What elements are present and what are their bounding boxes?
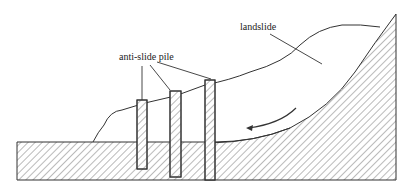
landslide-leader-line <box>270 34 322 64</box>
pile-leader-line-3 <box>157 62 211 79</box>
landslide-pile-diagram <box>0 0 409 194</box>
sliding-direction-arrow <box>248 108 296 128</box>
landslide-label: landslide <box>240 22 276 32</box>
anti-slide-pile-label: anti-slide pile <box>119 52 174 62</box>
pile-leader-line-2 <box>150 65 170 90</box>
arrow-head-icon <box>246 125 253 131</box>
